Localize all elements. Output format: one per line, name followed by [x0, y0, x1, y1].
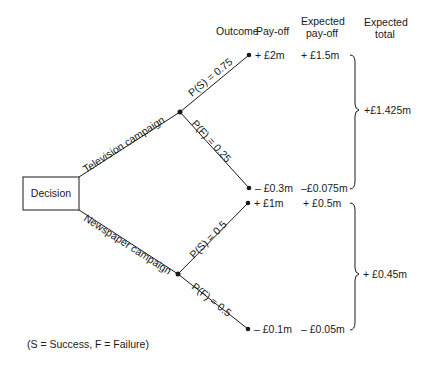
branch-label-newspaper: Newspaper campaign: [82, 212, 174, 277]
payoff-tv-success: + £2m: [255, 49, 285, 61]
brace-newspaper: [350, 203, 359, 330]
expected-total-newspaper: + £0.45m: [363, 268, 407, 280]
end-node: [247, 186, 252, 191]
header-expected-total-line2: total: [375, 28, 395, 40]
expected-payoff-tv-success: + £1.5m: [301, 49, 339, 61]
decision-label: Decision: [31, 187, 71, 199]
decision-tree: Outcome Pay-off Expected pay-off Expecte…: [0, 0, 426, 371]
end-node: [246, 201, 251, 206]
prob-label-tv-success: P(S) = 0.75: [186, 55, 235, 98]
header-expected-total-line1: Expected: [364, 16, 408, 28]
payoff-tv-failure: – £0.3m: [255, 182, 293, 194]
outcome-line-tv-success: [180, 55, 249, 112]
legend: (S = Success, F = Failure): [27, 338, 149, 350]
header-payoff: Pay-off: [256, 25, 289, 37]
brace-television: [350, 55, 359, 189]
prob-label-tv-failure: P(F) = 0.25: [190, 117, 234, 164]
prob-label-np-success: P(S) = 0.5: [187, 218, 229, 260]
header-expected-payoff-line1: Expected: [301, 15, 345, 27]
header-outcome: Outcome: [216, 25, 259, 37]
branch-label-television: Television campaign: [81, 113, 167, 174]
expected-payoff-np-failure: – £0.05m: [301, 323, 345, 335]
end-node: [247, 53, 252, 58]
expected-payoff-np-success: + £0.5m: [303, 197, 341, 209]
expected-total-television: +£1.425m: [364, 104, 411, 116]
end-node: [246, 327, 251, 332]
expected-payoff-tv-failure: –£0.075m: [301, 182, 348, 194]
header-expected-payoff-line2: pay-off: [306, 27, 338, 39]
prob-label-np-failure: P(F) = 0.5: [190, 280, 234, 319]
payoff-np-failure: – £0.1m: [254, 323, 292, 335]
payoff-np-success: + £1m: [254, 197, 284, 209]
